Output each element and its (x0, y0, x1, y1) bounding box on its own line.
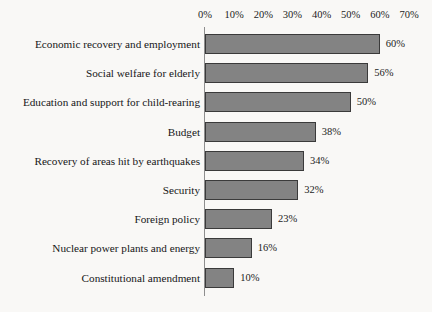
bar-category-label: Education and support for child-rearing (23, 92, 200, 112)
x-tick-label: 0% (198, 8, 212, 22)
x-tick-label: 40% (312, 8, 331, 22)
bar (205, 63, 368, 83)
bar-value-label: 56% (374, 63, 393, 83)
x-tick-label: 50% (341, 8, 360, 22)
bar-row: Recovery of areas hit by earthquakes34% (0, 151, 432, 171)
x-tick-label: 30% (283, 8, 302, 22)
bar-row: Social welfare for elderly56% (0, 63, 432, 83)
bar-value-label: 34% (310, 151, 329, 171)
x-tick-label: 70% (399, 8, 418, 22)
bar-category-label: Foreign policy (134, 209, 200, 229)
bar-category-label: Budget (168, 122, 200, 142)
bar (205, 180, 298, 200)
bar-row: Education and support for child-rearing5… (0, 92, 432, 112)
bar-row: Budget38% (0, 122, 432, 142)
bar-row: Nuclear power plants and energy16% (0, 238, 432, 258)
bar-value-label: 16% (258, 238, 277, 258)
bar-row: Security32% (0, 180, 432, 200)
bar (205, 92, 351, 112)
bar (205, 268, 234, 288)
bar-value-label: 10% (240, 268, 259, 288)
bar-row: Constitutional amendment10% (0, 268, 432, 288)
bar (205, 238, 252, 258)
bar (205, 34, 380, 54)
bar (205, 122, 316, 142)
x-axis-tick-labels: 0%10%20%30%40%50%60%70% (0, 8, 432, 22)
bar-category-label: Nuclear power plants and energy (52, 238, 200, 258)
bar-value-label: 32% (304, 180, 323, 200)
bar-category-label: Social welfare for elderly (86, 63, 200, 83)
bar-value-label: 38% (322, 122, 341, 142)
bar-value-label: 60% (386, 34, 405, 54)
bar-category-label: Economic recovery and employment (35, 34, 200, 54)
x-tick-label: 20% (254, 8, 273, 22)
bar (205, 209, 272, 229)
x-tick-label: 10% (225, 8, 244, 22)
bar-chart: 0%10%20%30%40%50%60%70% Economic recover… (0, 0, 432, 312)
bar-category-label: Constitutional amendment (82, 268, 200, 288)
bar-row: Foreign policy23% (0, 209, 432, 229)
bar (205, 151, 304, 171)
bar-row: Economic recovery and employment60% (0, 34, 432, 54)
plot-area: Economic recovery and employment60%Socia… (0, 27, 432, 302)
bar-category-label: Recovery of areas hit by earthquakes (34, 151, 200, 171)
bar-value-label: 50% (357, 92, 376, 112)
bar-value-label: 23% (278, 209, 297, 229)
x-tick-label: 60% (370, 8, 389, 22)
bar-category-label: Security (163, 180, 200, 200)
